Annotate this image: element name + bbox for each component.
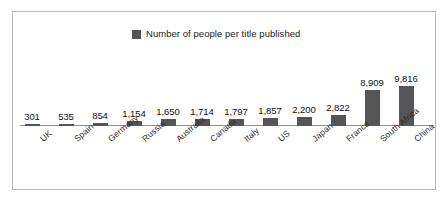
bar [59,124,74,126]
bar-column: 535 [59,56,74,126]
category-label: UK [38,128,54,143]
bar-column: 854 [93,56,108,126]
plot-area: 3015358541,1541,6501,7141,7971,8572,2002… [20,56,430,126]
bar-value-label: 9,816 [394,73,417,84]
bar-column: 1,650 [161,56,176,126]
bar-value-label: 1,650 [156,106,179,117]
category-axis-labels: UKSpainGermanyRussiaAustraliaCanadaItaly… [13,136,448,202]
bar-value-label: 535 [58,111,74,122]
bar-value-label: 854 [92,110,108,121]
chart-legend: Number of people per title published [132,29,300,39]
bar-column: 301 [25,56,40,126]
bar-value-label: 2,822 [326,102,349,113]
bar-value-label: 8,909 [360,77,383,88]
bar-value-label: 2,200 [292,104,315,115]
chart-frame: Number of people per title published 301… [12,11,436,190]
bar [263,118,278,126]
bar [297,117,312,126]
bar-column: 1,857 [263,56,278,126]
legend-swatch-icon [132,30,141,39]
bar [331,115,346,126]
bar-column: 2,200 [297,56,312,126]
bar-value-label: 301 [24,111,40,122]
bar-column: 2,822 [331,56,346,126]
category-label: Italy [242,126,261,144]
bar-value-label: 1,857 [258,105,281,116]
bar-column: 8,909 [365,56,380,126]
legend-label: Number of people per title published [146,29,300,39]
bar-value-label: 1,797 [224,106,247,117]
bar [25,124,40,126]
bar [93,123,108,126]
category-label: US [276,128,292,143]
